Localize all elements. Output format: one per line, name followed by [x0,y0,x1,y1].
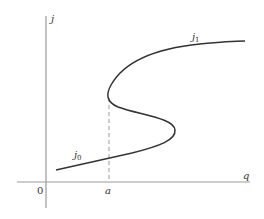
s-curve [56,41,245,170]
origin-label: 0 [37,185,43,196]
x-tick-label-a: a [105,185,111,196]
x-axis-label: q [243,170,249,181]
y-axis-label: j [49,13,54,24]
lower-branch-label: j0 [72,149,82,162]
upper-branch-label: j1 [190,31,200,44]
s-curve-diagram: j q 0 a j0 j1 [0,0,264,219]
